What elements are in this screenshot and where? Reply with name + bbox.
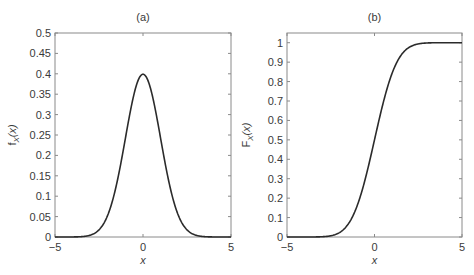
x-tick-label: 0 [371, 241, 377, 253]
figure: (a)00.050.10.150.20.250.30.350.40.450.5−… [0, 0, 474, 275]
y-tick-label: 0.8 [268, 76, 283, 88]
y-axis-label: fX(x) [6, 124, 21, 146]
y-tick-label: 0.45 [30, 47, 51, 59]
y-tick-label: 0.2 [268, 192, 283, 204]
y-tick-label: 0.35 [30, 88, 51, 100]
y-tick-label: 0.5 [36, 27, 51, 39]
y-tick-label: 0.1 [268, 212, 283, 224]
y-tick-label: 0.6 [268, 114, 283, 126]
y-tick-label: 0.05 [30, 211, 51, 223]
y-tick-label: 0.3 [268, 173, 283, 185]
x-axis-label: x [371, 254, 378, 266]
y-tick-label: 0.3 [36, 109, 51, 121]
x-tick-label: 5 [459, 241, 465, 253]
series-line-normal-pdf [55, 74, 231, 237]
y-tick-label: 0.4 [36, 68, 51, 80]
panel-title: (b) [368, 11, 381, 23]
y-tick-label: 0.25 [30, 129, 51, 141]
axes-frame [55, 33, 231, 237]
y-axis-label: FX(x) [240, 122, 255, 147]
x-axis-label: x [139, 254, 146, 266]
y-tick-label: 0.4 [268, 153, 283, 165]
panel-title: (a) [136, 11, 149, 23]
x-tick-label: −5 [49, 241, 62, 253]
y-tick-label: 0.9 [268, 56, 283, 68]
panel-a-pdf: (a)00.050.10.150.20.250.30.350.40.450.5−… [6, 11, 234, 266]
y-tick-label: 0.1 [36, 190, 51, 202]
x-tick-label: 5 [228, 241, 234, 253]
series-line-normal-cdf [287, 43, 462, 237]
x-tick-label: −5 [281, 241, 294, 253]
y-tick-label: 0.5 [268, 134, 283, 146]
y-tick-label: 0.15 [30, 170, 51, 182]
y-tick-label: 0.2 [36, 149, 51, 161]
axes-frame [287, 33, 462, 237]
y-tick-label: 1 [277, 37, 283, 49]
panel-b-cdf: (b)00.10.20.30.40.50.60.70.80.91−505xFX(… [240, 11, 465, 266]
y-tick-label: 0.7 [268, 95, 283, 107]
x-tick-label: 0 [140, 241, 146, 253]
